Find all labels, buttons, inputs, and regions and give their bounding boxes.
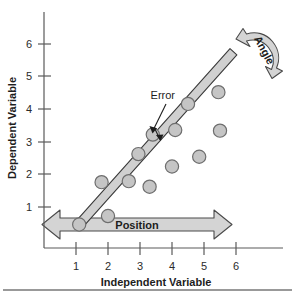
position-arrow-label: Position <box>115 219 159 231</box>
y-tick-label-5: 5 <box>26 70 32 82</box>
x-tick-label-2: 2 <box>105 260 111 272</box>
x-tick-label-3: 3 <box>137 260 143 272</box>
x-tick-label-5: 5 <box>201 260 207 272</box>
y-axis-title: Dependent Variable <box>6 77 18 179</box>
x-tick-label-4: 4 <box>169 260 175 272</box>
data-point <box>132 148 145 161</box>
y-tick-label-3: 3 <box>26 136 32 148</box>
data-point <box>193 150 206 163</box>
scatter-plot-figure: Position 6 5 4 3 2 1 Dependent Variable <box>0 0 295 297</box>
x-axis-title: Independent Variable <box>101 276 212 288</box>
y-tick-label-2: 2 <box>26 168 32 180</box>
data-point <box>165 160 178 173</box>
data-point <box>169 123 182 136</box>
error-annotation-label: Error <box>151 89 176 101</box>
plot-canvas: Position 6 5 4 3 2 1 Dependent Variable <box>0 0 295 297</box>
position-arrow: Position <box>42 210 232 239</box>
angle-arrow: Angle <box>236 29 283 79</box>
x-axis: 1 2 3 4 5 6 Independent Variable <box>44 242 283 288</box>
x-tick-label-6: 6 <box>233 260 239 272</box>
x-tick-label-1: 1 <box>73 260 79 272</box>
y-tick-label-6: 6 <box>26 38 32 50</box>
y-axis: 6 5 4 3 2 1 Dependent Variable <box>6 12 51 248</box>
y-tick-label-4: 4 <box>26 103 32 115</box>
data-point <box>181 97 194 110</box>
data-point <box>212 86 225 99</box>
data-point <box>213 124 226 137</box>
data-point <box>95 176 108 189</box>
data-point <box>122 175 135 188</box>
data-point <box>73 218 86 231</box>
data-point <box>143 180 156 193</box>
y-tick-label-1: 1 <box>26 201 32 213</box>
data-point <box>101 209 114 222</box>
